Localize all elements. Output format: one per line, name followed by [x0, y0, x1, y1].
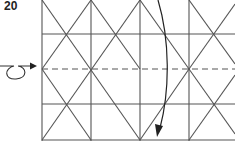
diagonal-crease — [189, 69, 235, 134]
curved-arrow-line — [158, 0, 167, 128]
diagonal-creases — [42, 0, 235, 140]
diagonal-crease — [189, 4, 235, 69]
diagonal-crease — [189, 75, 235, 140]
diagonal-crease — [189, 0, 235, 64]
curved-arrow-head — [155, 124, 163, 137]
grid-lines — [42, 0, 235, 141]
crease-pattern-diagram — [0, 0, 235, 141]
turn-over-loop-arrow — [0, 63, 37, 80]
loop-arrow-line — [0, 66, 33, 79]
loop-arrow-head — [30, 63, 37, 70]
